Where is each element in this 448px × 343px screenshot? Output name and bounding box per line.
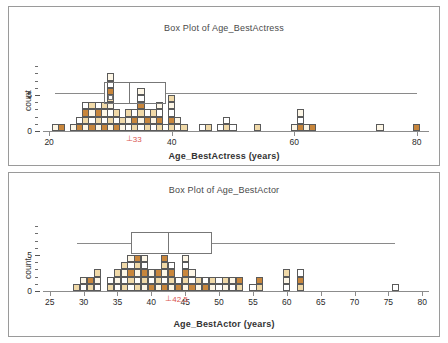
y-axis-tick [35, 226, 38, 227]
histogram-cell [376, 124, 383, 131]
histogram-cell [168, 262, 175, 269]
histogram-cell [168, 95, 175, 102]
x-axis-tick [253, 292, 254, 296]
x-axis-tick-label: 40 [147, 297, 156, 307]
y-axis-tick [35, 95, 40, 96]
boxplot-whisker-right [166, 93, 417, 94]
boxplot-median-line [168, 232, 169, 254]
y-axis-tick-label: 5 [21, 90, 32, 100]
x-axis-tick [321, 292, 322, 296]
histogram-cell [161, 255, 168, 262]
histogram-cell [297, 284, 304, 291]
histogram-cell [236, 277, 243, 284]
y-axis-tick [35, 248, 38, 249]
boxplot-whisker-right [212, 243, 395, 244]
x-axis-tick [172, 132, 173, 136]
chart-panel-actress: Box Plot of Age_BestActress count 204060… [8, 6, 440, 166]
y-axis-tick [35, 255, 40, 256]
y-axis-tick [35, 73, 38, 74]
histogram-cell [413, 124, 420, 131]
x-axis-tick [117, 292, 118, 296]
histogram-cell [205, 124, 212, 131]
histogram-cell [283, 277, 290, 284]
x-axis-tick [355, 292, 356, 296]
median-marker-tick: ⊥ [165, 295, 172, 303]
histogram-cell [256, 284, 263, 291]
x-axis-tick [50, 292, 51, 296]
plot-area-actress: 2040608005⊥33 [9, 7, 439, 165]
histogram-cell [256, 277, 263, 284]
x-axis-tick-label: 55 [248, 297, 257, 307]
histogram-cell [182, 262, 189, 269]
y-axis-tick [35, 284, 38, 285]
y-axis-tick [35, 88, 38, 89]
y-axis-tick [35, 277, 38, 278]
x-axis-tick [219, 292, 220, 296]
histogram-cell [174, 117, 181, 124]
y-axis-tick-label: 0 [21, 286, 32, 296]
histogram-cell [141, 262, 148, 269]
x-axis-tick [49, 132, 50, 136]
histogram-cell [168, 102, 175, 109]
x-axis-tick-label: 35 [113, 297, 122, 307]
boxplot-box [104, 82, 165, 104]
histogram-cell [113, 109, 120, 116]
x-axis-tick-label: 80 [412, 137, 421, 147]
histogram-cell [180, 124, 187, 131]
x-axis-tick [84, 292, 85, 296]
histogram-cell [229, 124, 236, 131]
x-axis-tick-label: 60 [289, 137, 298, 147]
histogram-cell [156, 117, 163, 124]
x-axis-tick-label: 40 [167, 137, 176, 147]
boxplot-outlier [108, 95, 113, 100]
y-axis-tick [35, 291, 40, 292]
histogram-cell [156, 109, 163, 116]
y-axis-tick [35, 241, 38, 242]
boxplot-box [131, 232, 212, 254]
y-axis-tick-label: 5 [21, 250, 32, 260]
histogram-cell [392, 284, 399, 291]
boxplot-median-line [129, 82, 130, 104]
x-axis-tick [287, 292, 288, 296]
x-axis-tick-label: 25 [45, 297, 54, 307]
x-axis-tick [294, 132, 295, 136]
histogram-cell [107, 73, 114, 80]
histogram-cell [168, 109, 175, 116]
y-axis-tick-label: 0 [21, 126, 32, 136]
histogram-cell [94, 277, 101, 284]
x-axis-tick-label: 75 [384, 297, 393, 307]
histogram-cell [223, 117, 230, 124]
histogram-cell [141, 255, 148, 262]
y-axis-tick [35, 233, 38, 234]
x-axis-line [43, 291, 429, 292]
median-marker-tick: ⊥ [126, 135, 133, 143]
histogram-cell [94, 269, 101, 276]
boxplot-whisker-left [55, 93, 104, 94]
x-axis-line [43, 131, 429, 132]
histogram-cell [236, 284, 243, 291]
y-axis-tick [35, 66, 38, 67]
x-axis-tick-label: 20 [44, 137, 53, 147]
histogram-cell [168, 269, 175, 276]
x-axis-tick-label: 50 [214, 297, 223, 307]
x-axis-tick [417, 132, 418, 136]
histogram-cell [297, 117, 304, 124]
histogram-cell [182, 255, 189, 262]
chart-panel-actor: Box Plot of Age_BestActor count 25303540… [8, 172, 440, 337]
x-axis-tick-label: 30 [79, 297, 88, 307]
boxplot-whisker-left [77, 243, 131, 244]
x-axis-tick-label: 80 [417, 297, 426, 307]
x-axis-tick [422, 292, 423, 296]
figure-root: Box Plot of Age_BestActress count 204060… [0, 0, 448, 343]
histogram-cell [283, 269, 290, 276]
histogram-cell [309, 124, 316, 131]
plot-area-actor: 25303540455055606570758005⊥42.5 [9, 173, 439, 336]
median-marker-label: 42.5 [172, 295, 188, 304]
histogram-cell [94, 284, 101, 291]
histogram-cell [283, 284, 290, 291]
x-axis-label-actor: Age_BestActor (years) [9, 319, 439, 329]
y-axis-tick [35, 269, 38, 270]
y-axis-tick [35, 109, 38, 110]
median-marker-label: 33 [133, 135, 142, 144]
x-axis-tick [151, 292, 152, 296]
